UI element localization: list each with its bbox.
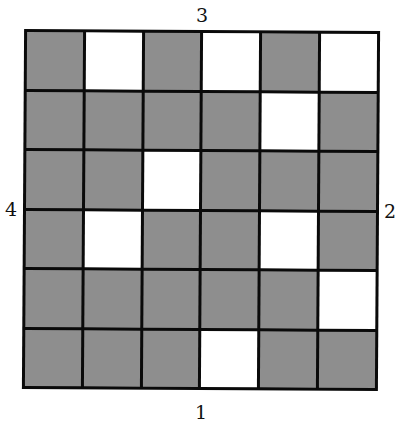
grid-cell-r3-c4-shaded [202, 152, 258, 209]
grid-cell-r2-c1-shaded [26, 91, 82, 148]
grid-cell-r4-c6-shaded [320, 212, 376, 269]
grid-cell-r1-c6-white [321, 34, 377, 91]
grid-cell-r4-c4-shaded [202, 212, 258, 269]
grid-cell-r1-c1-shaded [27, 32, 83, 89]
grid-cell-r1-c2-white [86, 32, 142, 89]
grid-cell-r2-c3-shaded [144, 92, 200, 149]
grid-cell-r5-c5-shaded [261, 271, 317, 328]
grid-cell-r1-c4-white [203, 33, 259, 90]
grid-cell-r6-c1-shaded [25, 329, 81, 386]
grid-cell-r5-c1-shaded [25, 270, 81, 327]
grid-cell-r3-c1-shaded [26, 151, 82, 208]
side-label-right: 2 [384, 202, 396, 221]
grid-cell-r6-c6-shaded [319, 331, 375, 388]
grid-cell-r2-c6-shaded [321, 93, 377, 150]
side-label-bottom: 1 [195, 403, 207, 422]
side-label-left: 4 [5, 200, 17, 219]
grid-cell-r3-c3-white [144, 152, 200, 209]
grid-cell-r2-c2-shaded [85, 92, 141, 149]
grid-cell-r6-c2-shaded [84, 330, 140, 387]
grid-cell-r5-c6-white [319, 272, 375, 329]
grid-cell-r3-c2-shaded [85, 151, 141, 208]
grid-cell-r6-c5-shaded [260, 331, 316, 388]
grid-cell-r3-c5-shaded [261, 152, 317, 209]
grid-cell-r4-c3-shaded [143, 211, 199, 268]
grid-cell-r4-c2-white [84, 211, 140, 268]
grid-cell-r3-c6-shaded [320, 153, 376, 210]
grid-cell-r6-c3-shaded [143, 330, 199, 387]
grid-cell-r2-c4-shaded [203, 93, 259, 150]
grid-cell-r4-c1-shaded [26, 210, 82, 267]
grid-cell-r5-c4-shaded [202, 271, 258, 328]
grid-cell-r2-c5-white [262, 93, 318, 150]
grid-cell-r1-c5-shaded [262, 33, 318, 90]
shaded-square-grid [22, 29, 380, 391]
grid-cell-r1-c3-shaded [144, 33, 200, 90]
grid-cell-r5-c2-shaded [84, 270, 140, 327]
grid-cell-r6-c4-white [201, 331, 257, 388]
side-label-top: 3 [196, 6, 208, 25]
grid-cell-r4-c5-white [261, 212, 317, 269]
grid-cell-r5-c3-shaded [143, 271, 199, 328]
